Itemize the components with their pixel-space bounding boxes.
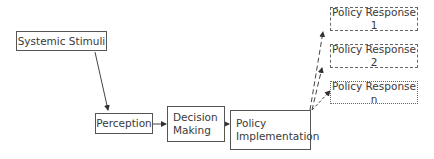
arrow-stimuli-to-perception xyxy=(95,52,108,110)
node-systemic-stimuli: Systemic Stimuli xyxy=(16,31,107,51)
node-policy-response-2: Policy Response 2 xyxy=(330,44,418,68)
node-label: Systemic Stimuli xyxy=(18,35,106,48)
node-perception: Perception xyxy=(95,113,153,134)
arrow-implementation-to-response2 xyxy=(312,68,322,110)
node-label-line2: Implementation xyxy=(236,130,319,143)
node-policy-response-n: Policy Response n xyxy=(330,81,418,104)
node-label: Policy Response 2 xyxy=(331,43,417,69)
node-label-line1: Decision xyxy=(173,111,218,124)
node-decision-making: Decision Making xyxy=(167,106,225,142)
node-label: Policy Response 1 xyxy=(331,6,417,32)
node-label-line2: Making xyxy=(173,124,211,137)
node-policy-implementation: Policy Implementation xyxy=(230,110,311,150)
node-label: Perception xyxy=(96,117,152,130)
node-label-line1: Policy xyxy=(236,117,266,130)
node-label: Policy Response n xyxy=(331,80,417,106)
node-policy-response-1: Policy Response 1 xyxy=(330,7,418,31)
